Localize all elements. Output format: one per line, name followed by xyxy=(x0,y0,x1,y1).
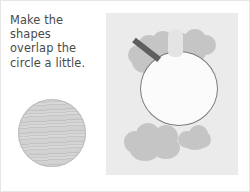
instruction-text: Make the shapes overlap the circle a lit… xyxy=(10,13,106,70)
torn-paper-shape-bottom-right xyxy=(178,125,212,151)
torn-paper-shape-bottom-left xyxy=(124,121,182,163)
instruction-illustration: Make the shapes overlap the circle a lit… xyxy=(0,0,250,192)
traced-circle-outline xyxy=(140,51,218,126)
textured-paper-circle xyxy=(18,99,86,167)
worksheet-panel xyxy=(106,13,238,175)
paper-tab-shape xyxy=(168,29,183,57)
